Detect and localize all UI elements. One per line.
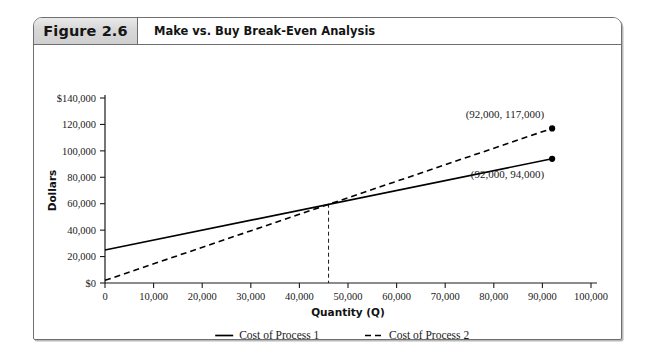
figure-frame: Figure 2.6 Make vs. Buy Break-Even Analy… bbox=[33, 17, 622, 340]
y-axis-tick-label: 40,000 bbox=[67, 225, 96, 236]
data-point-annotation-1: (92,000, 117,000) bbox=[466, 108, 545, 121]
figure-number-label: Figure 2.6 bbox=[43, 23, 127, 39]
y-axis-tick-label: 120,000 bbox=[62, 119, 96, 130]
x-axis-title: Quantity (Q) bbox=[311, 306, 385, 318]
x-axis-tick-label: 20,000 bbox=[188, 291, 217, 302]
page-title: Make vs. Buy Break-Even Analysis bbox=[154, 24, 375, 38]
y-axis-tick-label: 80,000 bbox=[67, 172, 96, 183]
legend-label-1: Cost of Process 1 bbox=[239, 329, 319, 340]
x-axis-tick-label: 80,000 bbox=[479, 291, 508, 302]
x-axis-tick-label: 10,000 bbox=[139, 291, 168, 302]
break-even-chart: $020,00040,00060,00080,000100,000120,000… bbox=[34, 45, 621, 340]
data-point-annotation-2: (92,000, 94,000) bbox=[471, 168, 545, 181]
x-axis-tick-label: 30,000 bbox=[236, 291, 265, 302]
series-line-2 bbox=[105, 128, 552, 280]
figure-title-box: Make vs. Buy Break-Even Analysis bbox=[138, 18, 621, 44]
figure-number-box: Figure 2.6 bbox=[34, 18, 138, 44]
figure-header: Figure 2.6 Make vs. Buy Break-Even Analy… bbox=[34, 18, 621, 45]
series-endpoint-2 bbox=[549, 125, 555, 131]
x-axis-tick-label: 40,000 bbox=[285, 291, 314, 302]
y-axis-tick-label: $0 bbox=[86, 278, 97, 289]
chart-plot-area: $020,00040,00060,00080,000100,000120,000… bbox=[34, 45, 621, 340]
y-axis-tick-label: 60,000 bbox=[67, 198, 96, 209]
y-axis-tick-label: 100,000 bbox=[62, 146, 96, 157]
x-axis-tick-label: 70,000 bbox=[431, 291, 460, 302]
series-endpoint-1 bbox=[549, 156, 555, 162]
y-axis-tick-label: $140,000 bbox=[57, 93, 96, 104]
x-axis-tick-label: 60,000 bbox=[382, 291, 411, 302]
x-axis-tick-label: 0 bbox=[102, 291, 107, 302]
figure-root: Figure 2.6 Make vs. Buy Break-Even Analy… bbox=[0, 0, 660, 358]
x-axis-tick-label: 50,000 bbox=[334, 291, 363, 302]
y-axis-tick-label: 20,000 bbox=[67, 251, 96, 262]
legend-label-2: Cost of Process 2 bbox=[389, 329, 469, 340]
y-axis-title: Dollars bbox=[46, 170, 58, 212]
x-axis-tick-label: 90,000 bbox=[528, 291, 557, 302]
x-axis-tick-label: 100,000 bbox=[574, 291, 608, 302]
